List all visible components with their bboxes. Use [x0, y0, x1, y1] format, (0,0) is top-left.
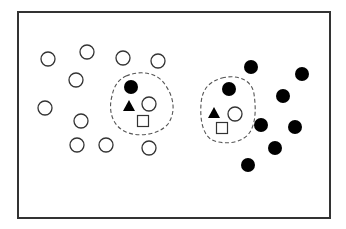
right-cluster [201, 77, 255, 143]
filled-circle-icon [254, 118, 268, 132]
open-circle-icon [80, 45, 94, 59]
diagram-frame [18, 12, 330, 218]
left-cluster [111, 73, 174, 135]
diagram-canvas [0, 0, 346, 229]
filled-circle-icon [295, 67, 309, 81]
open-circle-icon [69, 73, 83, 87]
open-circle-icon [228, 107, 242, 121]
square-icon [217, 123, 228, 134]
open-circle-icon [70, 138, 84, 152]
filled-circle-icon [241, 158, 255, 172]
triangle-icon [208, 107, 220, 118]
open-circle-icon [41, 52, 55, 66]
open-circle-icon [142, 141, 156, 155]
open-circle-icon [116, 51, 130, 65]
filled-circle-icon [222, 82, 236, 96]
triangle-icon [123, 100, 135, 111]
scatter-diagram [0, 0, 346, 229]
filled-circle-group [241, 60, 309, 172]
filled-circle-icon [124, 80, 138, 94]
open-circle-icon [99, 138, 113, 152]
cluster-group [111, 73, 256, 143]
open-circle-icon [151, 54, 165, 68]
open-circle-icon [74, 114, 88, 128]
filled-circle-icon [268, 141, 282, 155]
open-circle-icon [142, 97, 156, 111]
filled-circle-icon [244, 60, 258, 74]
square-icon [138, 116, 149, 127]
filled-circle-icon [288, 120, 302, 134]
open-circle-icon [38, 101, 52, 115]
filled-circle-icon [276, 89, 290, 103]
